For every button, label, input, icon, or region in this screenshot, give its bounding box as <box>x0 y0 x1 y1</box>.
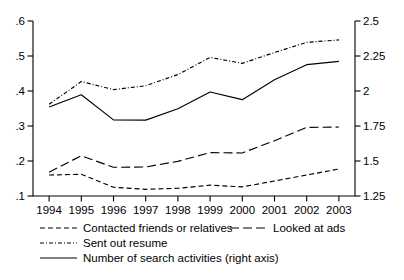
legend-label: Looked at ads <box>273 222 346 234</box>
right-axis-tick-label: 1.25 <box>363 190 385 202</box>
x-axis-tick-label: 1994 <box>36 204 62 216</box>
plot-frame-path <box>33 21 355 196</box>
left-axis-tick-label: .1 <box>15 190 25 202</box>
right-axis-tick-labels: 1.251.51.7522.252.5 <box>363 15 385 202</box>
x-axis-tick-label: 1999 <box>197 204 223 216</box>
x-axis-tick-label: 1995 <box>69 204 95 216</box>
right-axis-tick-label: 1.75 <box>363 120 385 132</box>
right-axis-tick-label: 2 <box>363 85 369 97</box>
x-axis-tick-label: 1998 <box>165 204 191 216</box>
line-chart: .1.2.3.4.5.6 1.251.51.7522.252.5 1994199… <box>0 0 404 280</box>
left-axis-tick-labels: .1.2.3.4.5.6 <box>15 15 25 202</box>
right-axis-ticks <box>355 21 361 196</box>
x-axis-ticks <box>49 196 339 202</box>
series-line-3 <box>49 40 339 104</box>
x-axis-tick-label: 2003 <box>326 204 352 216</box>
right-axis-tick-label: 1.5 <box>363 155 379 167</box>
legend-label: Contacted friends or relatives <box>83 222 233 234</box>
left-axis-ticks <box>28 21 34 196</box>
right-axis-tick-label: 2.5 <box>363 15 379 27</box>
left-axis-tick-label: .4 <box>15 85 25 97</box>
plot-frame <box>33 21 355 196</box>
right-axis-tick-label: 2.25 <box>363 50 385 62</box>
legend-label: Number of search activities (right axis) <box>83 252 279 264</box>
left-axis-tick-label: .2 <box>15 155 25 167</box>
left-axis-tick-label: .6 <box>15 15 25 27</box>
chart-figure: .1.2.3.4.5.6 1.251.51.7522.252.5 1994199… <box>0 0 404 280</box>
legend-label: Sent out resume <box>83 237 167 249</box>
series-line-2 <box>49 127 339 172</box>
x-axis-tick-labels: 1994199519961997199819992000200120022003 <box>36 204 351 216</box>
data-series-group <box>49 40 339 189</box>
x-axis-tick-label: 2002 <box>294 204 320 216</box>
left-axis-tick-label: .5 <box>15 50 25 62</box>
x-axis-tick-label: 1996 <box>101 204 127 216</box>
series-line-1 <box>49 169 339 189</box>
x-axis-tick-label: 2000 <box>230 204 256 216</box>
left-axis-tick-label: .3 <box>15 120 25 132</box>
x-axis-tick-label: 2001 <box>262 204 288 216</box>
series-line-4 <box>49 61 339 120</box>
chart-legend: Contacted friends or relativesLooked at … <box>40 222 346 264</box>
x-axis-tick-label: 1997 <box>133 204 159 216</box>
